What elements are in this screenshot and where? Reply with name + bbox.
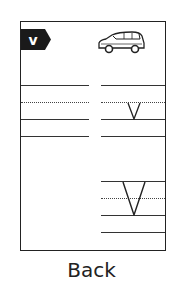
upper-line-left-base (21, 119, 89, 120)
lowercase-v-example (127, 102, 141, 120)
upper-line-left-mid (21, 102, 89, 103)
hexagon-badge-icon: v (21, 29, 51, 50)
svg-text:v: v (28, 32, 37, 48)
card-side-caption: Back (0, 258, 183, 282)
upper-line-left-bottom (21, 136, 89, 137)
upper-line-right-top (101, 85, 165, 86)
uppercase-v-example (122, 181, 146, 216)
upper-line-left-top (21, 85, 89, 86)
lower-line-bottom (101, 232, 165, 233)
van-icon (96, 31, 146, 55)
upper-line-right-bottom (101, 136, 165, 137)
worksheet-card: v (20, 21, 166, 251)
